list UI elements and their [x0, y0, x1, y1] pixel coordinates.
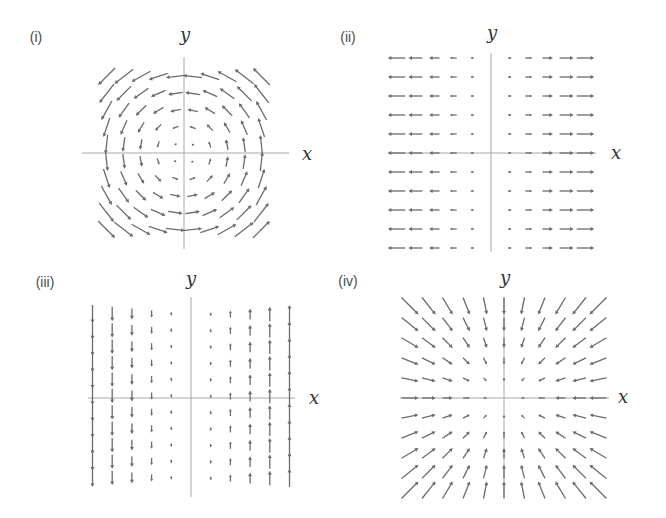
vector-arrow — [209, 329, 211, 333]
vector-arrow — [150, 409, 153, 416]
vector-arrow — [237, 86, 252, 101]
vector-arrow — [502, 448, 506, 458]
vector-arrow — [209, 460, 211, 464]
vector-arrow — [560, 94, 574, 98]
vector-arrow — [555, 431, 565, 438]
vector-arrow — [122, 154, 126, 169]
vector-arrow — [443, 482, 453, 499]
vector-arrow — [525, 171, 532, 174]
vector-arrow — [200, 226, 219, 233]
vector-arrow — [150, 392, 153, 399]
vector-arrow — [202, 90, 217, 97]
vector-arrow — [443, 298, 453, 315]
vector-arrow — [248, 423, 252, 434]
vector-arrow — [207, 175, 213, 181]
vector-arrow — [521, 431, 525, 438]
vector-arrow — [229, 425, 232, 432]
vector-arrow — [577, 56, 595, 60]
vector-arrow — [258, 169, 265, 188]
vector-arrow — [209, 394, 211, 398]
vector-arrow — [172, 177, 178, 180]
vector-arrow — [402, 298, 419, 315]
vector-arrow — [402, 396, 419, 400]
vector-arrow — [229, 442, 232, 449]
vector-arrow — [542, 189, 553, 193]
vector-arrow — [508, 133, 512, 135]
vector-arrow — [288, 403, 292, 421]
vector-arrow — [572, 414, 586, 418]
vector-arrow — [132, 71, 151, 82]
vector-arrow — [150, 458, 153, 465]
vector-arrow — [209, 443, 211, 447]
vector-arrow — [402, 378, 419, 383]
vector-arrow — [463, 318, 470, 332]
vector-arrow — [192, 143, 194, 145]
vector-arrow — [189, 177, 195, 180]
panel-ii-y-axis-label: y — [487, 22, 497, 43]
vector-arrow — [590, 358, 607, 365]
vector-arrow — [402, 318, 419, 332]
vector-arrow — [520, 318, 524, 332]
vector-arrow — [422, 465, 436, 479]
vector-arrow — [130, 309, 134, 320]
vector-arrow — [560, 113, 574, 117]
vector-arrow — [508, 209, 512, 211]
vector-arrow — [520, 448, 524, 458]
vector-arrow — [110, 405, 114, 419]
vector-arrow — [388, 94, 406, 98]
vector-arrow — [463, 397, 470, 400]
vector-arrow — [209, 411, 211, 415]
vector-arrow — [538, 448, 545, 458]
vector-arrow — [187, 108, 198, 112]
vector-arrow — [450, 57, 457, 60]
vector-arrow — [114, 222, 133, 237]
vector-arrow — [590, 378, 607, 383]
vector-arrow — [538, 298, 545, 315]
vector-arrow — [429, 170, 440, 174]
vector-arrow — [408, 227, 422, 231]
vector-arrow — [248, 391, 252, 402]
vector-arrow — [577, 94, 595, 98]
vector-arrow — [577, 227, 595, 231]
vector-arrow — [91, 354, 95, 372]
vector-arrow — [429, 189, 440, 193]
vector-arrow — [525, 57, 532, 60]
vector-arrow — [429, 56, 440, 60]
vector-arrow — [463, 378, 470, 382]
vector-arrow — [560, 208, 574, 212]
vector-arrow — [191, 160, 193, 162]
vector-arrow — [542, 113, 553, 117]
panel-iv-label: (iv) — [338, 273, 357, 289]
vector-arrow — [241, 120, 248, 135]
vector-arrow — [538, 482, 545, 499]
vector-arrow — [508, 57, 512, 59]
vector-arrow — [538, 397, 545, 400]
vector-arrow — [130, 440, 134, 451]
vector-arrow — [525, 133, 532, 136]
vector-arrow — [388, 246, 406, 250]
vector-arrow — [450, 171, 457, 174]
vector-arrow — [408, 75, 422, 79]
vector-arrow — [222, 190, 233, 201]
vector-arrow — [150, 425, 153, 432]
vector-arrow — [590, 298, 607, 315]
vector-arrow — [248, 407, 252, 418]
panel-ii-plot — [388, 53, 596, 252]
vector-arrow — [525, 114, 532, 117]
vector-arrow — [91, 420, 95, 438]
vector-arrow — [168, 211, 183, 215]
vector-arrow — [151, 90, 166, 97]
vector-arrow — [520, 482, 525, 499]
vector-arrow — [248, 440, 252, 451]
vector-arrow — [134, 207, 149, 218]
vector-arrow — [121, 137, 125, 152]
vector-arrow — [229, 376, 232, 383]
vector-arrow — [209, 312, 211, 316]
vector-arrow — [521, 415, 524, 418]
panel-iv-plot — [400, 297, 609, 499]
vector-arrow — [572, 318, 586, 332]
vector-arrow — [248, 456, 252, 467]
vector-arrow — [521, 378, 524, 381]
vector-arrow — [508, 190, 512, 192]
vector-arrow — [542, 94, 553, 98]
